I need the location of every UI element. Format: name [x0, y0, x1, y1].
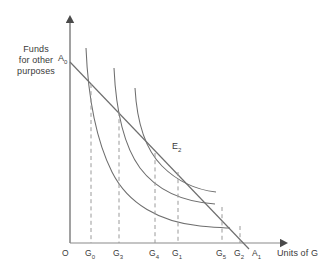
tick-label-G3-sub: 3: [120, 254, 123, 260]
annotation-E2: E2: [172, 141, 182, 155]
tick-label-G2: G2: [234, 248, 244, 262]
annotation-E2-sub: 2: [178, 147, 181, 153]
diagram-canvas: [0, 0, 324, 274]
tick-label-G0-base: G: [85, 248, 92, 258]
tick-label-G5: G5: [216, 248, 226, 262]
tick-label-G1: G1: [172, 248, 182, 262]
tick-label-G4: G4: [149, 248, 159, 262]
diagram-figure: Funds for other purposes A0 E2 O G0 G3 G…: [0, 0, 324, 274]
tick-label-G3: G3: [113, 248, 123, 262]
indifference-curve-1: [86, 48, 230, 228]
tick-label-G1-base: G: [172, 248, 179, 258]
y-axis-label-line-2: for other: [8, 55, 64, 66]
indifference-curve-2: [114, 68, 215, 204]
tick-label-G2-base: G: [234, 248, 241, 258]
tick-label-G0: G0: [85, 248, 95, 262]
tick-label-G2-sub: 2: [241, 254, 244, 260]
tick-label-G1-sub: 1: [179, 254, 182, 260]
origin-label: O: [62, 248, 69, 259]
y-axis-label-line-1: Funds: [8, 44, 64, 55]
x-intercept-sub: 1: [258, 254, 261, 260]
x-intercept-label-A1: A1: [252, 248, 261, 262]
budget-line: [70, 62, 249, 249]
y-axis-label-line-3: purposes: [8, 66, 64, 77]
x-axis-title: Units of G: [277, 248, 318, 259]
y-intercept-sub: 0: [64, 59, 67, 65]
tick-label-G3-base: G: [113, 248, 120, 258]
tick-label-G5-base: G: [216, 248, 223, 258]
y-axis-label: Funds for other purposes: [8, 44, 64, 77]
y-intercept-label-A0: A0: [58, 53, 68, 67]
tick-label-G4-sub: 4: [156, 254, 159, 260]
tick-label-G0-sub: 0: [92, 254, 95, 260]
tick-label-G4-base: G: [149, 248, 156, 258]
tick-label-G5-sub: 5: [223, 254, 226, 260]
